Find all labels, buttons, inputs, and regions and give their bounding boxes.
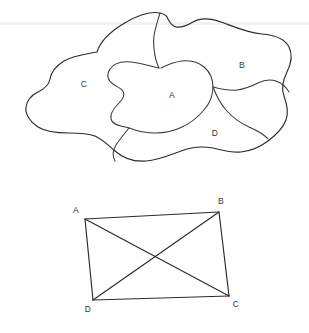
quad-side-ab	[85, 212, 219, 219]
region-label-c: C	[81, 79, 87, 89]
quad-vertex-label-b: B	[218, 196, 224, 206]
blob-divider-path-0	[154, 13, 160, 68]
scan-artifact-band	[0, 22, 309, 25]
region-label-d: D	[212, 128, 218, 138]
blob-divider-path-1	[108, 62, 159, 128]
quad-side-cd	[93, 296, 229, 300]
blob-outline-path	[26, 13, 291, 162]
quad-side-bc	[219, 212, 229, 296]
blob-divider-path-5	[213, 87, 268, 139]
quad-vertex-label-c: C	[233, 299, 239, 309]
region-label-a: A	[169, 90, 175, 100]
quad-vertex-label-a: A	[73, 205, 79, 215]
quadrilateral-figure: A B C D	[73, 196, 239, 314]
diagram-canvas: A B C D A B C D	[0, 0, 309, 333]
quad-diagonal-ac	[85, 219, 229, 296]
blob-map-figure: A B C D	[26, 13, 291, 162]
quad-side-da	[85, 219, 93, 300]
blob-divider-path-3	[213, 80, 289, 92]
region-label-b: B	[239, 60, 245, 70]
quad-diagonal-bd	[93, 212, 219, 300]
quad-vertex-label-d: D	[85, 304, 91, 314]
